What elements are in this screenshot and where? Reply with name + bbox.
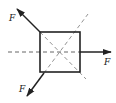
force-label-upper-left: F [8, 13, 16, 23]
force-diagram: F F F [0, 0, 116, 103]
force-arrow-lower-left [27, 73, 44, 96]
force-arrow-upper-left [17, 9, 40, 32]
force-label-lower-left: F [18, 84, 26, 94]
diagonal-rising-line [44, 14, 88, 73]
force-label-right: F [103, 57, 111, 67]
